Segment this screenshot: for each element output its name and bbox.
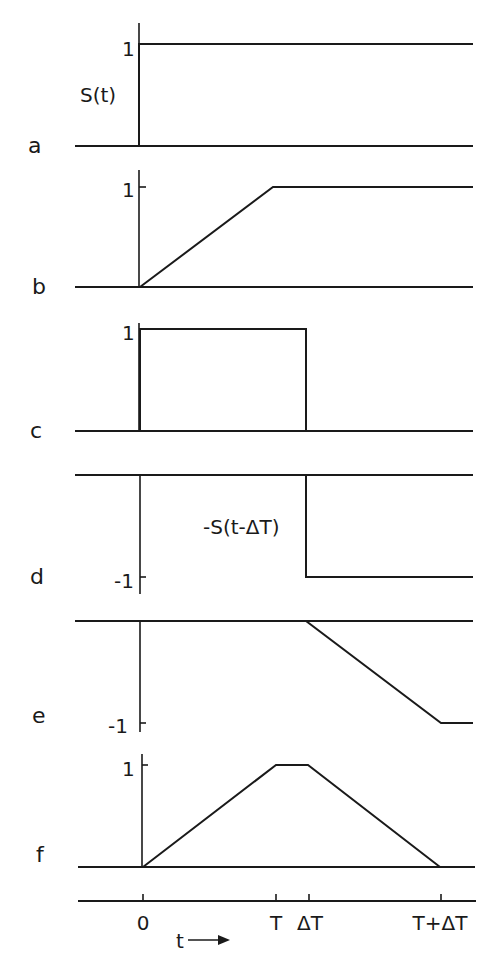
panel-d: -S(t-ΔT) -1 d	[30, 475, 473, 594]
panel-letter: c	[30, 418, 42, 443]
y-tick-label: 1	[122, 37, 135, 61]
trapezoid-signal	[143, 765, 440, 867]
panel-letter: a	[28, 133, 41, 158]
tick-label-T: T	[269, 911, 283, 935]
panel-letter: d	[30, 564, 44, 589]
y-tick-label: -1	[114, 569, 134, 593]
signal-annotation: S(t)	[80, 83, 116, 107]
y-tick-label: 1	[122, 757, 135, 781]
neg-ramp-signal	[75, 621, 473, 723]
panel-c: 1 c	[30, 321, 473, 443]
panel-letter: b	[32, 274, 46, 299]
panel-letter: f	[36, 842, 45, 867]
tick-label-delta-T: ΔT	[297, 911, 324, 935]
tick-label-0: 0	[137, 911, 150, 935]
time-axis: 0 T ΔT T+ΔT t	[78, 894, 476, 953]
signal-annotation: -S(t-ΔT)	[203, 515, 279, 539]
arrow-right-icon	[218, 935, 230, 945]
panel-letter: e	[32, 703, 46, 728]
waveform-figure: 1 S(t) a 1 b 1 c -S(t-ΔT) -1 d -1 e	[0, 0, 502, 976]
y-tick-label: 1	[122, 178, 135, 202]
panel-a: 1 S(t) a	[28, 23, 473, 158]
ramp-signal	[140, 187, 473, 287]
panel-e: -1 e	[32, 621, 473, 738]
y-tick-label: 1	[122, 321, 135, 345]
time-variable-label: t	[176, 929, 184, 953]
panel-f: 1 f	[36, 754, 475, 867]
panel-b: 1 b	[32, 170, 473, 299]
y-tick-label: -1	[108, 714, 128, 738]
tick-label-T-plus-delta-T: T+ΔT	[412, 911, 469, 935]
